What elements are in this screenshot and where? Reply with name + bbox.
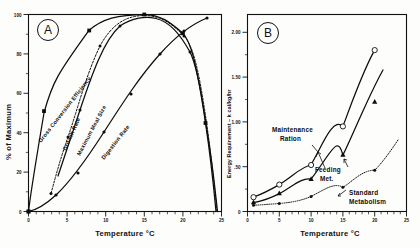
- panel-a-ytick-20: 20: [16, 170, 22, 175]
- marker-point: [277, 182, 282, 187]
- figure-root: 0 20 40 60 80 100 % of Maximum: [0, 0, 420, 248]
- panel-a-xtick-20: 20: [180, 218, 186, 223]
- panel-b: 0 .50 1.00 1.50 2.00 Energy Requirement …: [226, 15, 409, 239]
- panel-a: 0 20 40 60 80 100 % of Maximum: [4, 13, 224, 238]
- leader-line-feeding-met: [344, 159, 348, 167]
- marker-point: [76, 171, 79, 174]
- panel-b-xtick-10: 10: [309, 218, 315, 223]
- panel-b-xtick-25: 25: [404, 218, 410, 223]
- curve-label-maintenance: Maintenance: [272, 126, 313, 133]
- curve-label-maximum-meal-size: Maximum Meal Size: [76, 104, 108, 156]
- marker-point: [252, 204, 255, 207]
- panel-b-xtick-5: 5: [278, 218, 281, 223]
- panel-a-xtick-0: 0: [27, 218, 30, 223]
- panel-a-letter: A: [44, 23, 52, 37]
- marker-point: [99, 45, 102, 48]
- panel-b-y-ticks: [243, 32, 248, 211]
- panel-a-y-ticks: [24, 15, 29, 212]
- marker-point: [309, 162, 314, 167]
- curve-label-met: Met.: [320, 175, 334, 182]
- panel-a-y-axis-title: % of Maximum: [4, 104, 13, 160]
- panel-a-x-axis-title: Temperature °C: [95, 229, 155, 238]
- panel-a-xtick-10: 10: [103, 218, 109, 223]
- panel-b-ytick-150: 1.50: [232, 75, 241, 80]
- marker-point: [205, 16, 208, 19]
- curve-label-feeding: Feeding: [315, 166, 341, 174]
- curve-gross-conversion-efficiency: [29, 15, 217, 212]
- panel-a-ytick-80: 80: [16, 52, 22, 57]
- panel-a-ytick-60: 60: [16, 91, 22, 96]
- panel-a-ytick-0: 0: [19, 210, 22, 215]
- marker-point: [372, 48, 377, 53]
- panel-b-x-ticks: [248, 212, 407, 217]
- curve-growth-rate: [51, 16, 217, 212]
- marker-point: [54, 193, 57, 196]
- curve-label-ration: Ration: [280, 135, 301, 142]
- panel-b-ytick-200: 2.00: [232, 30, 241, 35]
- marker-point: [278, 202, 281, 205]
- marker-point: [129, 92, 132, 95]
- panel-b-x-axis-title: Temperature °C: [300, 229, 360, 238]
- marker-point: [158, 52, 161, 55]
- panel-b-ytick-100: 1.00: [232, 120, 241, 125]
- curve-label-metabolism: Metabolism: [349, 198, 386, 205]
- marker-point: [251, 195, 256, 200]
- marker-point: [27, 210, 31, 214]
- marker-point: [42, 109, 46, 113]
- panel-a-xtick-15: 15: [142, 218, 148, 223]
- curve-maximum-meal-size: [58, 17, 218, 211]
- marker-point: [182, 29, 185, 32]
- curve-label-standard: Standard: [349, 189, 378, 196]
- panel-b-letter: B: [264, 26, 272, 40]
- marker-point: [372, 99, 377, 104]
- curve-feeding-met: [254, 70, 384, 203]
- panel-b-xtick-0: 0: [246, 218, 249, 223]
- curve-digestion-rate: [29, 18, 208, 212]
- scientific-figure: 0 20 40 60 80 100 % of Maximum: [0, 0, 420, 248]
- panel-a-x-ticks: [29, 212, 222, 217]
- panel-b-ytick-050: .50: [234, 165, 241, 170]
- panel-a-xtick-25: 25: [219, 218, 225, 223]
- panel-b-y-axis-title: Energy Requirement – k cal/kg/hr: [226, 89, 232, 178]
- panel-b-ytick-0: 0: [238, 210, 241, 215]
- panel-b-xtick-15: 15: [340, 218, 346, 223]
- marker-point: [373, 169, 376, 172]
- panel-a-xtick-5: 5: [66, 218, 69, 223]
- marker-point: [310, 195, 313, 198]
- marker-point: [87, 29, 91, 33]
- marker-point: [189, 51, 192, 54]
- marker-point: [119, 25, 122, 28]
- marker-point: [50, 192, 53, 195]
- panel-a-ytick-100: 100: [14, 13, 22, 18]
- curve-label-growth-rate: Growth Rate: [61, 117, 81, 152]
- panel-a-ytick-40: 40: [16, 131, 22, 136]
- marker-point: [102, 130, 105, 133]
- panel-b-xtick-20: 20: [372, 218, 378, 223]
- marker-point: [341, 186, 344, 189]
- marker-point: [79, 109, 82, 112]
- marker-point: [183, 35, 186, 38]
- curve-label-digestion-rate: Digestion Rate: [100, 124, 131, 161]
- marker-point: [340, 124, 345, 129]
- leader-line-standard-metabolism: [338, 190, 346, 196]
